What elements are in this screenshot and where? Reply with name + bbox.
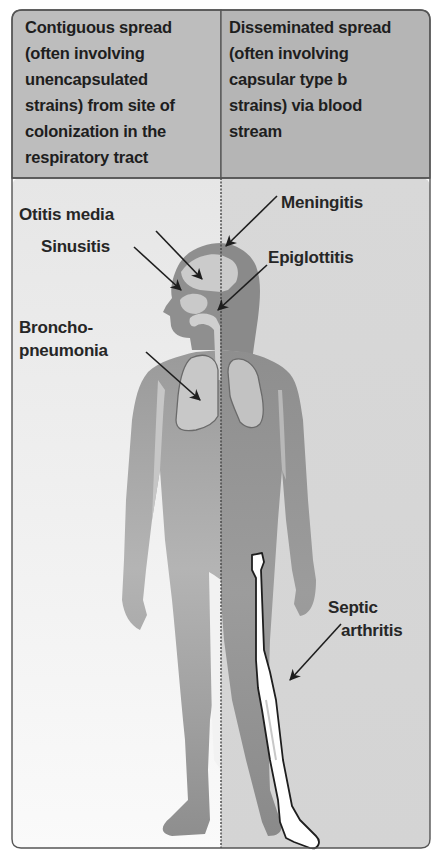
label-line: pneumonia xyxy=(19,339,108,362)
label-epiglottitis: Epiglottitis xyxy=(268,246,353,269)
header-line: Contiguous spread xyxy=(25,14,175,40)
header-line: capsular type b xyxy=(229,66,391,92)
header-line: (often involving xyxy=(229,40,391,66)
header-line: strains) via blood xyxy=(229,92,391,118)
header-line: stream xyxy=(229,118,391,144)
header-line: strains) from site of xyxy=(25,92,175,118)
header-line: colonization in the xyxy=(25,118,175,144)
label-line: Broncho- xyxy=(19,316,108,339)
infection-routes-figure: Contiguous spread (often involving unenc… xyxy=(0,0,433,861)
label-line: arthritis xyxy=(328,619,403,642)
label-line: Septic xyxy=(328,596,403,619)
header-line: (often involving xyxy=(25,40,175,66)
label-otitis-media: Otitis media xyxy=(19,203,114,226)
disseminated-spread-header: Disseminated spread (often involving cap… xyxy=(229,14,391,144)
contiguous-spread-header: Contiguous spread (often involving unenc… xyxy=(25,14,175,170)
label-meningitis: Meningitis xyxy=(281,191,363,214)
header-line: respiratory tract xyxy=(25,144,175,170)
label-sinusitis: Sinusitis xyxy=(41,235,110,258)
label-bronchopneumonia: Broncho- pneumonia xyxy=(19,316,108,362)
label-septic-arthritis: Septic arthritis xyxy=(328,596,403,642)
header-line: Disseminated spread xyxy=(229,14,391,40)
header-line: unencapsulated xyxy=(25,66,175,92)
